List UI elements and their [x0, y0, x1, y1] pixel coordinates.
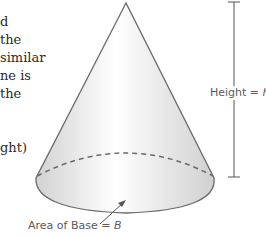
- cone-body: [36, 3, 214, 213]
- height-label-text: Height =: [210, 86, 263, 99]
- base-label-text: Area of Base =: [28, 219, 114, 232]
- height-label: Height = h: [210, 86, 266, 99]
- base-area-label: Area of Base = B: [28, 219, 121, 232]
- height-variable: h: [263, 86, 266, 99]
- base-variable: B: [114, 219, 122, 232]
- cone-diagram: [0, 0, 266, 236]
